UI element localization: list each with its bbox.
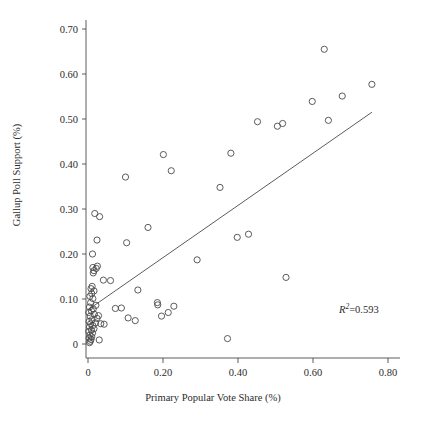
data-point	[122, 174, 128, 180]
data-point	[118, 305, 124, 311]
data-point	[339, 93, 345, 99]
scatter-plot-figure: 00.100.200.300.400.500.600.7000.200.400.…	[0, 0, 427, 421]
x-axis-title: Primary Popular Vote Share (%)	[145, 392, 281, 404]
r-squared-annotation: R2=0.593	[338, 302, 379, 315]
data-point	[280, 120, 286, 126]
data-point	[107, 277, 113, 283]
y-tick-label: 0.40	[60, 159, 78, 170]
data-point	[158, 313, 164, 319]
y-tick-label: 0.50	[60, 114, 78, 125]
y-axis-title: Gallup Poll Support (%)	[11, 123, 23, 226]
y-tick-label: 0.30	[60, 204, 78, 215]
data-point	[124, 240, 130, 246]
data-point	[94, 237, 100, 243]
y-tick-label: 0.20	[60, 249, 78, 260]
data-point	[217, 184, 223, 190]
regression-line	[88, 112, 372, 310]
data-point	[321, 46, 327, 52]
data-point	[168, 168, 174, 174]
y-tick-label: 0.70	[60, 24, 78, 35]
data-point	[160, 151, 166, 157]
data-point	[228, 150, 234, 156]
data-point	[171, 303, 177, 309]
x-tick-label: 0.80	[379, 367, 397, 378]
axis-tick-labels: 00.100.200.300.400.500.600.7000.200.400.…	[60, 24, 398, 378]
data-point	[145, 224, 151, 230]
x-tick-label: 0.20	[154, 367, 172, 378]
data-point	[245, 231, 251, 237]
data-point	[165, 309, 171, 315]
data-point	[125, 315, 131, 321]
x-tick-label: 0.40	[229, 367, 247, 378]
r-value: =0.593	[349, 304, 379, 315]
y-tick-label: 0	[73, 339, 78, 350]
data-point	[112, 305, 118, 311]
data-point	[224, 336, 230, 342]
data-point	[283, 274, 289, 280]
data-point	[96, 337, 102, 343]
data-point	[97, 214, 103, 220]
y-tick-label: 0.10	[60, 294, 78, 305]
data-point	[309, 98, 315, 104]
data-point	[254, 119, 260, 125]
data-points	[86, 46, 375, 346]
data-point	[234, 234, 240, 240]
trend-line	[88, 112, 372, 310]
x-tick-label: 0.60	[304, 367, 322, 378]
data-point	[135, 287, 141, 293]
data-point	[89, 251, 95, 257]
data-point	[325, 117, 331, 123]
data-point	[132, 318, 138, 324]
data-point	[100, 277, 106, 283]
y-tick-label: 0.60	[60, 69, 78, 80]
plot-canvas: 00.100.200.300.400.500.600.7000.200.400.…	[0, 0, 427, 421]
data-point	[194, 257, 200, 263]
data-point	[369, 81, 375, 87]
x-tick-label: 0	[85, 367, 90, 378]
